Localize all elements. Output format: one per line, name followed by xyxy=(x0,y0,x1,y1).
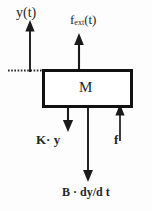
external-force-label-tail: (t) xyxy=(84,12,96,27)
spring-force-arrow xyxy=(63,106,73,132)
free-body-diagram: y(t) fext(t) M K· y f B · dy/d t xyxy=(0,0,152,211)
reaction-force-label: f xyxy=(114,133,118,146)
displacement-arrow xyxy=(25,20,34,72)
damping-force-arrow xyxy=(83,106,93,182)
spring-force-label: K· y xyxy=(36,133,60,146)
damping-force-label: B · dy/d t xyxy=(62,186,110,198)
external-force-label: fext(t) xyxy=(70,13,96,27)
displacement-label: y(t) xyxy=(16,6,36,20)
external-force-label-subscript: ext xyxy=(74,18,84,27)
external-force-arrow xyxy=(74,33,84,70)
mass-label: M xyxy=(79,80,92,95)
